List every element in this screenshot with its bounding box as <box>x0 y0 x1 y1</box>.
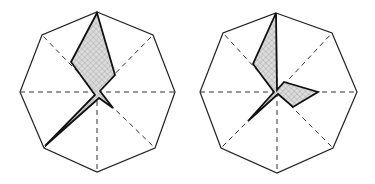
data-polygon <box>248 13 318 121</box>
data-polygon <box>45 13 115 146</box>
radar-glyph-left <box>20 12 175 172</box>
radar-glyph-right <box>200 13 357 173</box>
radar-glyph-figure <box>0 0 375 184</box>
